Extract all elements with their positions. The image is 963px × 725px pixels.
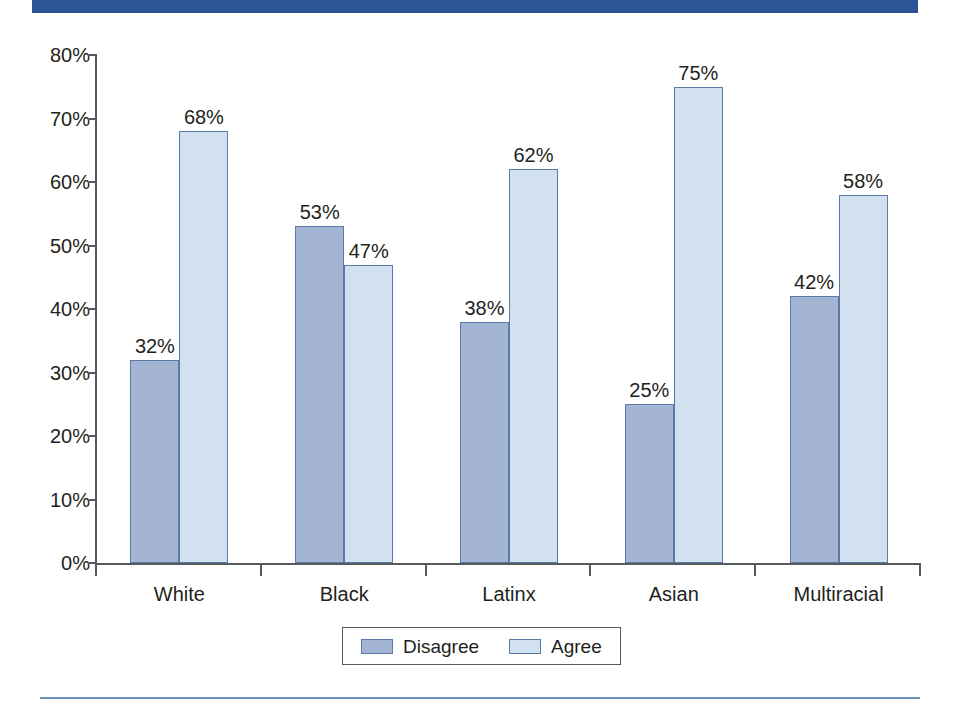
x-axis-category-label: Multiracial: [756, 582, 921, 606]
legend-swatch-disagree: [361, 639, 393, 654]
x-axis-tick-mark: [589, 565, 591, 576]
y-axis-tick-label: 50%: [18, 236, 90, 256]
bar-value-label: 32%: [122, 336, 187, 356]
y-axis-tick-label: 40%: [18, 299, 90, 319]
top-banner-decoration: [32, 0, 918, 13]
bar-value-label: 38%: [452, 298, 517, 318]
bar-group: 38%62%: [460, 55, 558, 563]
legend-item-disagree[interactable]: Disagree: [361, 637, 479, 656]
x-axis-tick-mark: [919, 565, 921, 576]
x-axis-category-label: Latinx: [427, 582, 592, 606]
bar-agree-black[interactable]: [344, 265, 393, 563]
y-axis-tick-mark: [88, 372, 97, 374]
chart-legend: Disagree Agree: [342, 627, 621, 665]
x-axis-tick-mark: [425, 565, 427, 576]
bar-value-label: 25%: [617, 380, 682, 400]
chart-page: 0%10%20%30%40%50%60%70%80% 32%68%53%47%3…: [0, 0, 963, 725]
y-axis-labels: 0%10%20%30%40%50%60%70%80%: [18, 30, 90, 575]
bar-agree-white[interactable]: [179, 131, 228, 563]
y-axis-tick-label: 20%: [18, 426, 90, 446]
x-axis-category-label: Asian: [591, 582, 756, 606]
bar-group: 42%58%: [790, 55, 888, 563]
bar-value-label: 62%: [501, 145, 566, 165]
y-axis-tick-mark: [88, 118, 97, 120]
bottom-divider-rule: [40, 697, 920, 699]
y-axis-tick-mark: [88, 245, 97, 247]
y-axis-tick-label: 0%: [18, 553, 90, 573]
legend-item-agree[interactable]: Agree: [509, 637, 602, 656]
x-axis-labels: WhiteBlackLatinxAsianMultiracial: [97, 582, 921, 616]
y-axis-tick-mark: [88, 181, 97, 183]
legend-label-disagree: Disagree: [403, 637, 479, 656]
bar-group: 25%75%: [625, 55, 723, 563]
bar-value-label: 47%: [336, 241, 401, 261]
x-axis-category-label: Black: [262, 582, 427, 606]
x-axis-line: [95, 563, 921, 565]
bar-agree-latinx[interactable]: [509, 169, 558, 563]
legend-swatch-agree: [509, 639, 541, 654]
plot-area: 32%68%53%47%38%62%25%75%42%58%: [97, 55, 921, 563]
legend-label-agree: Agree: [551, 637, 602, 656]
y-axis-tick-label: 60%: [18, 172, 90, 192]
bar-value-label: 68%: [171, 107, 236, 127]
bar-value-label: 42%: [782, 272, 847, 292]
bar-disagree-multiracial[interactable]: [790, 296, 839, 563]
bar-disagree-latinx[interactable]: [460, 322, 509, 563]
y-axis-tick-mark: [88, 54, 97, 56]
bar-value-label: 75%: [666, 63, 731, 83]
y-axis-tick-mark: [88, 562, 97, 564]
bar-chart: 0%10%20%30%40%50%60%70%80% 32%68%53%47%3…: [0, 30, 963, 630]
x-axis-tick-mark: [754, 565, 756, 576]
x-axis-tick-mark: [260, 565, 262, 576]
y-axis-tick-label: 70%: [18, 109, 90, 129]
bar-disagree-black[interactable]: [295, 226, 344, 563]
bar-agree-multiracial[interactable]: [839, 195, 888, 563]
y-axis-tick-label: 80%: [18, 45, 90, 65]
y-axis-tick-mark: [88, 308, 97, 310]
bar-value-label: 58%: [831, 171, 896, 191]
bar-disagree-asian[interactable]: [625, 404, 674, 563]
bar-disagree-white[interactable]: [130, 360, 179, 563]
x-axis-tick-mark: [95, 565, 97, 576]
bar-group: 32%68%: [130, 55, 228, 563]
x-axis-category-label: White: [97, 582, 262, 606]
y-axis-tick-mark: [88, 435, 97, 437]
y-axis-tick-label: 30%: [18, 363, 90, 383]
bar-value-label: 53%: [287, 202, 352, 222]
bar-agree-asian[interactable]: [674, 87, 723, 563]
y-axis-tick-label: 10%: [18, 490, 90, 510]
y-axis-tick-mark: [88, 499, 97, 501]
bar-group: 53%47%: [295, 55, 393, 563]
